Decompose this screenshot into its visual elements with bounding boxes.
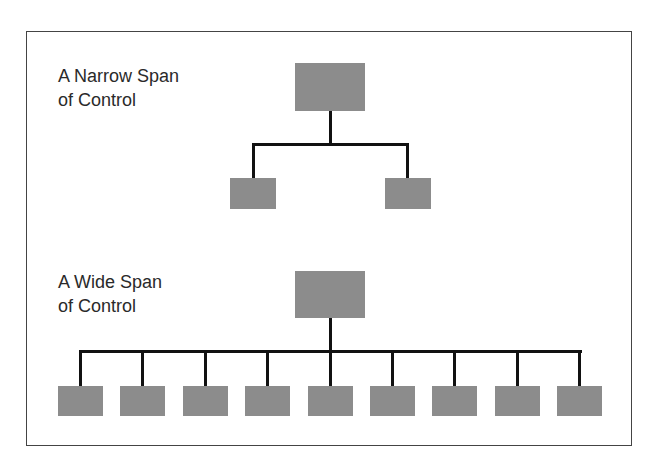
wide-span-title-line2: of Control (58, 294, 162, 318)
narrow-connector-right (406, 143, 409, 179)
wide-connector-drop (516, 350, 519, 387)
narrow-span-title-line2: of Control (58, 88, 179, 112)
wide-subordinate-box (557, 386, 602, 416)
wide-connector-drop (329, 350, 332, 387)
wide-connector-drop (141, 350, 144, 387)
narrow-connector-left (252, 143, 255, 179)
wide-subordinate-box (58, 386, 103, 416)
wide-connector-vertical (329, 318, 332, 353)
narrow-connector-vertical (329, 111, 332, 145)
wide-connector-drop (266, 350, 269, 387)
wide-subordinate-box (432, 386, 477, 416)
narrow-subordinate-box (385, 178, 431, 209)
narrow-manager-box (295, 63, 365, 111)
wide-subordinate-box (370, 386, 415, 416)
wide-manager-box (295, 271, 365, 318)
narrow-span-title-line1: A Narrow Span (58, 64, 179, 88)
narrow-subordinate-box (230, 178, 276, 209)
wide-subordinate-box (245, 386, 290, 416)
wide-connector-drop (204, 350, 207, 387)
wide-connector-drop (79, 350, 82, 387)
wide-subordinate-box (495, 386, 540, 416)
wide-subordinate-box (120, 386, 165, 416)
wide-subordinate-box (183, 386, 228, 416)
narrow-span-label: A Narrow Span of Control (58, 64, 179, 112)
narrow-connector-horizontal (252, 143, 409, 146)
wide-span-title-line1: A Wide Span (58, 270, 162, 294)
wide-span-label: A Wide Span of Control (58, 270, 162, 318)
wide-connector-drop (578, 350, 581, 387)
wide-connector-drop (391, 350, 394, 387)
wide-subordinate-box (308, 386, 353, 416)
wide-connector-drop (453, 350, 456, 387)
